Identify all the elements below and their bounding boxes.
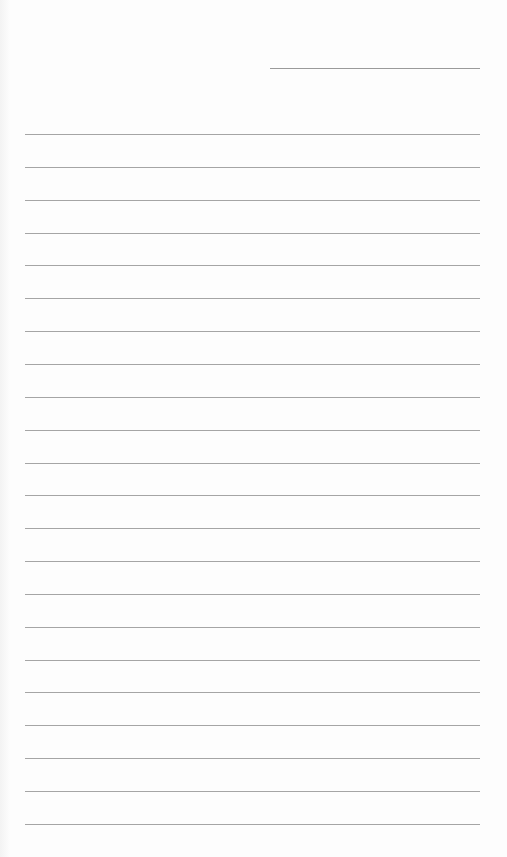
ruled-line [25, 528, 480, 529]
ruled-line [25, 233, 480, 234]
ruled-line [25, 627, 480, 628]
ruled-line [25, 397, 480, 398]
ruled-line [25, 167, 480, 168]
ruled-line [25, 758, 480, 759]
ruled-line [25, 495, 480, 496]
ruled-line [25, 364, 480, 365]
ruled-line [25, 430, 480, 431]
ruled-line [25, 265, 480, 266]
ruled-line [25, 791, 480, 792]
ruled-line [25, 200, 480, 201]
ruled-line [25, 134, 480, 135]
ruled-line [25, 561, 480, 562]
lined-paper-page [0, 0, 507, 857]
ruled-line [25, 463, 480, 464]
ruled-line [25, 594, 480, 595]
ruled-line [25, 660, 480, 661]
date-line [270, 68, 480, 69]
ruled-line [25, 824, 480, 825]
ruled-line [25, 692, 480, 693]
ruled-line [25, 331, 480, 332]
ruled-line [25, 298, 480, 299]
ruled-line [25, 725, 480, 726]
